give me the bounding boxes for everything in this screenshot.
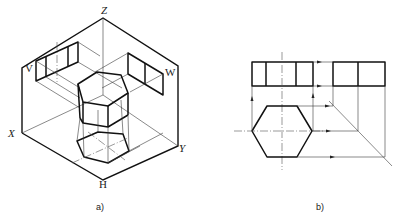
figure-a-caption: a)	[96, 202, 104, 212]
w-plane-projection	[95, 53, 163, 95]
x-axis-label: X	[7, 127, 16, 139]
orthographic-projection-figure: Z X Y V W H a)	[0, 0, 395, 220]
side-view	[333, 62, 385, 86]
front-view	[252, 52, 313, 170]
projection-lines	[251, 61, 393, 167]
box-outline	[22, 18, 178, 180]
miter-line	[329, 101, 392, 166]
h-plane-projection	[72, 100, 163, 163]
top-view	[234, 106, 325, 157]
figure-a-projection-box: Z X Y V W H a)	[7, 4, 187, 212]
y-axis-label: Y	[179, 142, 187, 154]
h-plane-label: H	[99, 178, 107, 190]
v-plane-label: V	[25, 62, 33, 74]
figure-b-caption: b)	[316, 202, 324, 212]
z-axis-label: Z	[101, 4, 108, 16]
figure-b-three-views: b)	[234, 52, 392, 212]
w-plane-label: W	[165, 66, 176, 78]
x-axis	[22, 95, 103, 133]
